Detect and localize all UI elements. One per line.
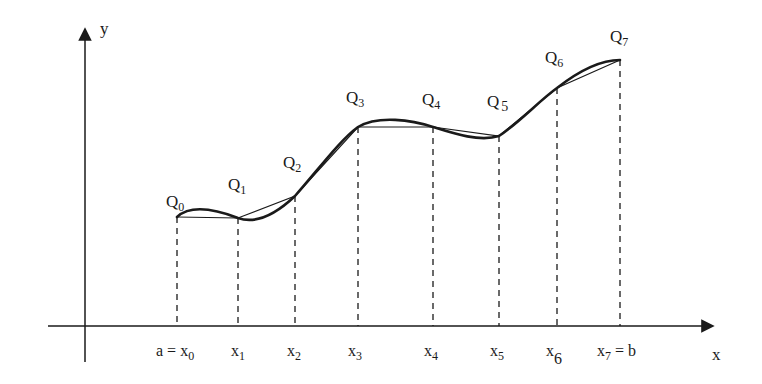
tick-label-x7: x7 = b bbox=[597, 342, 636, 363]
y-axis-label: y bbox=[100, 19, 109, 38]
point-label-q2: Q2 bbox=[283, 153, 301, 175]
tick-label-x6: x6 bbox=[546, 342, 562, 367]
tick-label-x2: x2 bbox=[287, 342, 301, 363]
point-label-q1: Q1 bbox=[228, 175, 246, 197]
tick-label-x0: a = x0 bbox=[156, 342, 194, 363]
tick-label-x1: x1 bbox=[231, 342, 245, 363]
tick-label-x5: x5 bbox=[490, 342, 504, 363]
point-label-q6: Q6 bbox=[545, 48, 563, 70]
x-axis-label: x bbox=[712, 345, 721, 364]
point-label-q0: Q0 bbox=[166, 192, 184, 214]
point-label-q7: Q7 bbox=[610, 27, 628, 49]
riemann-polygon-diagram: y x Q0 Q1 Q2 Q3 Q4 Q5 Q6 Q7 a = x0 x1 x2… bbox=[0, 0, 762, 384]
point-label-q3: Q3 bbox=[346, 88, 364, 110]
point-label-q4: Q4 bbox=[422, 90, 440, 112]
tick-label-x4: x4 bbox=[424, 342, 438, 363]
point-label-q5: Q5 bbox=[487, 92, 508, 114]
tick-labels: a = x0 x1 x2 x3 x4 x5 x6 x7 = b bbox=[156, 342, 636, 367]
axes: y x bbox=[48, 19, 721, 364]
tick-label-x3: x3 bbox=[348, 342, 362, 363]
